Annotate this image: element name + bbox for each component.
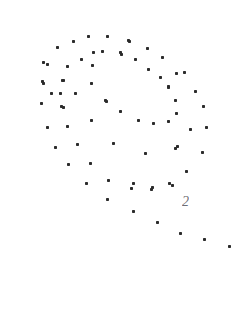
scatter-dot — [56, 46, 59, 49]
scatter-dot — [46, 63, 49, 66]
scatter-dot — [128, 40, 131, 43]
scatter-dot — [134, 58, 137, 61]
scatter-dot — [112, 142, 115, 145]
scatter-dot — [119, 110, 122, 113]
scatter-dot — [189, 128, 192, 131]
scatter-dot — [179, 232, 182, 235]
scatter-dot — [144, 152, 147, 155]
scatter-dot — [175, 72, 178, 75]
scatter-dot — [167, 120, 170, 123]
scatter-dot — [50, 92, 53, 95]
scatter-dot — [194, 90, 197, 93]
scatter-dot — [202, 105, 205, 108]
scatter-dot — [228, 245, 231, 248]
scatter-dot — [80, 58, 83, 61]
scatter-dot — [167, 86, 170, 89]
scatter-dot — [203, 238, 206, 241]
scatter-dot — [67, 163, 70, 166]
scatter-dot — [183, 71, 186, 74]
scatter-dot — [89, 162, 92, 165]
scatter-dot — [87, 35, 90, 38]
scatter-dot — [72, 40, 75, 43]
scatter-dot — [150, 188, 153, 191]
scatter-dot — [159, 76, 162, 79]
handwritten-label-2: 2 — [182, 195, 189, 209]
scatter-dot — [101, 50, 104, 53]
scatter-dot — [185, 170, 188, 173]
scatter-dot — [46, 126, 49, 129]
scatter-dot — [66, 125, 69, 128]
scatter-dot — [74, 92, 77, 95]
scatter-dot — [90, 119, 93, 122]
scatter-dot — [132, 210, 135, 213]
scatter-dot — [91, 64, 94, 67]
scatter-dot — [161, 56, 164, 59]
scatter-dot — [106, 35, 109, 38]
scatter-dot — [176, 145, 179, 148]
scatter-dot — [90, 82, 93, 85]
scatter-dot — [76, 143, 79, 146]
scatter-dot — [156, 221, 159, 224]
scatter-dot — [107, 179, 110, 182]
scatter-dot — [59, 92, 62, 95]
scatter-dot — [40, 102, 43, 105]
scatter-dot — [66, 65, 69, 68]
scatter-dot — [201, 151, 204, 154]
scatter-dot — [132, 182, 135, 185]
scatter-dot — [119, 51, 122, 54]
scatter-dot — [54, 146, 57, 149]
scatter-dot — [175, 112, 178, 115]
scatter-dot — [42, 82, 45, 85]
scatter-dot — [146, 47, 149, 50]
scatter-dot — [171, 184, 174, 187]
scatter-dot — [106, 198, 109, 201]
scatter-dot — [92, 51, 95, 54]
scatter-dot — [205, 126, 208, 129]
scatter-dot — [85, 182, 88, 185]
scatter-dot — [152, 122, 155, 125]
scatter-dot — [105, 100, 108, 103]
scatter-dot — [42, 61, 45, 64]
dot-pattern-canvas: 2 — [0, 0, 244, 321]
scatter-dot — [174, 99, 177, 102]
scatter-dot — [62, 79, 65, 82]
scatter-dot — [137, 119, 140, 122]
scatter-dot — [62, 106, 65, 109]
scatter-dot — [130, 187, 133, 190]
scatter-dot — [147, 68, 150, 71]
